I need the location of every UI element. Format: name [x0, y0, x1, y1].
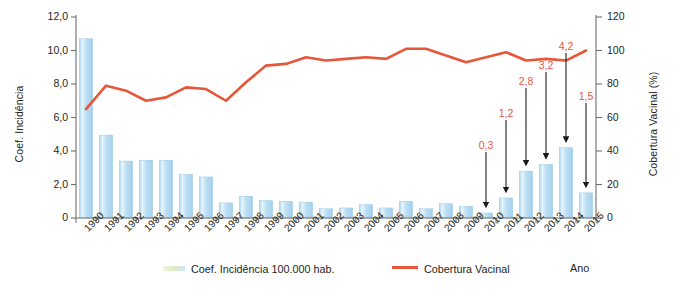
data-label-2013: 3,2	[533, 59, 559, 71]
x-tick-2013: 2013	[542, 210, 566, 234]
y-tick-left-10,0: 10,0	[34, 44, 68, 56]
legend-label-incidence: Coef. Incidência 100.000 hab.	[191, 263, 334, 275]
y-tick-right-120: 120	[607, 10, 641, 22]
x-tick-2000: 2000	[282, 210, 306, 234]
legend-item-coverage: Cobertura Vacinal	[392, 262, 510, 275]
x-tick-1991: 1991	[102, 210, 126, 234]
x-tick-2015: 2015	[582, 210, 606, 234]
x-tick-2010: 2010	[482, 210, 506, 234]
x-tick-2009: 2009	[462, 210, 486, 234]
x-tick-2003: 2003	[342, 210, 366, 234]
chart-container: Coef. Incidência Cobertura Vacinal (%) 0…	[0, 0, 678, 295]
y-tick-right-100: 100	[607, 44, 641, 56]
chart-overlay: 02,04,06,08,010,012,00204060801001201990…	[0, 0, 678, 295]
x-tick-2008: 2008	[442, 210, 466, 234]
y-tick-right-0: 0	[607, 211, 641, 223]
data-label-2012: 2,8	[513, 75, 539, 87]
data-label-2011: 1,2	[493, 107, 519, 119]
x-tick-1998: 1998	[242, 210, 266, 234]
x-tick-1996: 1996	[202, 210, 226, 234]
legend-label-coverage: Cobertura Vacinal	[424, 263, 510, 275]
x-tick-2001: 2001	[302, 210, 326, 234]
x-tick-1993: 1993	[142, 210, 166, 234]
x-tick-2004: 2004	[362, 210, 386, 234]
x-axis-caption: Ano	[570, 262, 589, 274]
x-tick-1994: 1994	[162, 210, 186, 234]
x-tick-2012: 2012	[522, 210, 546, 234]
x-tick-2007: 2007	[422, 210, 446, 234]
y-tick-right-80: 80	[607, 77, 641, 89]
y-tick-left-2,0: 2,0	[34, 178, 68, 190]
legend-item-incidence: Coef. Incidência 100.000 hab.	[163, 262, 334, 275]
x-tick-1999: 1999	[262, 210, 286, 234]
x-tick-1992: 1992	[122, 210, 146, 234]
data-label-2015: 1,5	[573, 90, 599, 102]
x-tick-2006: 2006	[402, 210, 426, 234]
x-tick-2011: 2011	[502, 211, 525, 234]
x-tick-2014: 2014	[562, 210, 586, 234]
y-tick-left-6,0: 6,0	[34, 111, 68, 123]
y-tick-right-40: 40	[607, 144, 641, 156]
y-tick-left-0: 0	[34, 211, 68, 223]
y-tick-left-4,0: 4,0	[34, 144, 68, 156]
x-tick-2002: 2002	[322, 210, 346, 234]
y-tick-right-60: 60	[607, 111, 641, 123]
legend-bar-swatch-icon	[163, 266, 185, 271]
legend-line-swatch-icon	[392, 266, 418, 269]
x-tick-1990: 1990	[82, 210, 106, 234]
data-label-2010: 0,3	[473, 139, 499, 151]
y-tick-right-20: 20	[607, 178, 641, 190]
y-tick-left-8,0: 8,0	[34, 77, 68, 89]
x-tick-2005: 2005	[382, 210, 406, 234]
x-tick-1995: 1995	[182, 210, 206, 234]
x-tick-1997: 1997	[222, 210, 246, 234]
y-tick-left-12,0: 12,0	[34, 10, 68, 22]
data-label-2014: 4,2	[553, 40, 579, 52]
